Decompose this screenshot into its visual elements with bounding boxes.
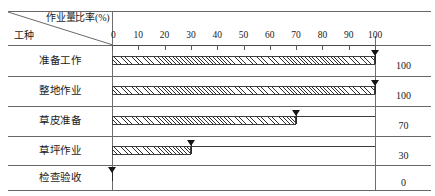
row-label-1: 准备工作 (8, 55, 112, 67)
row-value-4: 30 (376, 150, 431, 162)
grid-rule-bottom (8, 190, 431, 191)
row-value-3: 70 (376, 120, 431, 132)
axis-tick-label: 70 (282, 30, 310, 40)
axis-tick (217, 45, 218, 50)
progress-bar-2 (112, 86, 375, 95)
progress-bar-chart: 作业量比率(%) 工种 0102030405060708090100 准备工作1… (0, 0, 435, 196)
row-value-1: 100 (376, 60, 431, 72)
axis-tick-label: 10 (124, 30, 152, 40)
axis-tick (349, 45, 350, 50)
grid-rule-row-1 (8, 76, 431, 77)
axis-title-trade: 工种 (14, 30, 34, 42)
axis-tick (112, 45, 113, 50)
progress-bar-3 (112, 116, 296, 125)
grid-rule-row-2 (8, 106, 431, 107)
progress-marker-1 (371, 50, 379, 56)
grid-rule-row-4 (8, 165, 431, 166)
axis-tick (296, 45, 297, 50)
axis-tick-label: 90 (335, 30, 363, 40)
axis-tick (138, 45, 139, 50)
row-label-2: 整地作业 (8, 85, 112, 97)
progress-marker-5 (108, 167, 116, 173)
axis-tick (270, 45, 271, 50)
row-value-2: 100 (376, 90, 431, 102)
axis-tick-label: 30 (177, 30, 205, 40)
axis-tick (191, 45, 192, 50)
progress-bar-1 (112, 56, 375, 65)
axis-tick-label: 20 (151, 30, 179, 40)
axis-tick-label: 0 (111, 30, 123, 40)
axis-tick (244, 45, 245, 50)
axis-tick-label: 40 (203, 30, 231, 40)
progress-marker-4 (187, 140, 195, 146)
row-value-5: 0 (376, 177, 431, 189)
axis-tick (165, 45, 166, 50)
progress-marker-2 (371, 80, 379, 86)
progress-bar-4 (112, 146, 191, 155)
axis-tick-label: 80 (308, 30, 336, 40)
axis-tick-label: 100 (361, 30, 389, 40)
axis-tick-label: 60 (256, 30, 284, 40)
row-label-5: 检查验收 (8, 172, 112, 184)
axis-title-ratio: 作业量比率(%) (46, 12, 109, 24)
progress-marker-3 (292, 110, 300, 116)
axis-tick (322, 45, 323, 50)
grid-rule-row-3 (8, 136, 431, 137)
axis-tick-label: 50 (230, 30, 258, 40)
row-label-3: 草皮准备 (8, 115, 112, 127)
row-label-4: 草坪作业 (8, 145, 112, 157)
